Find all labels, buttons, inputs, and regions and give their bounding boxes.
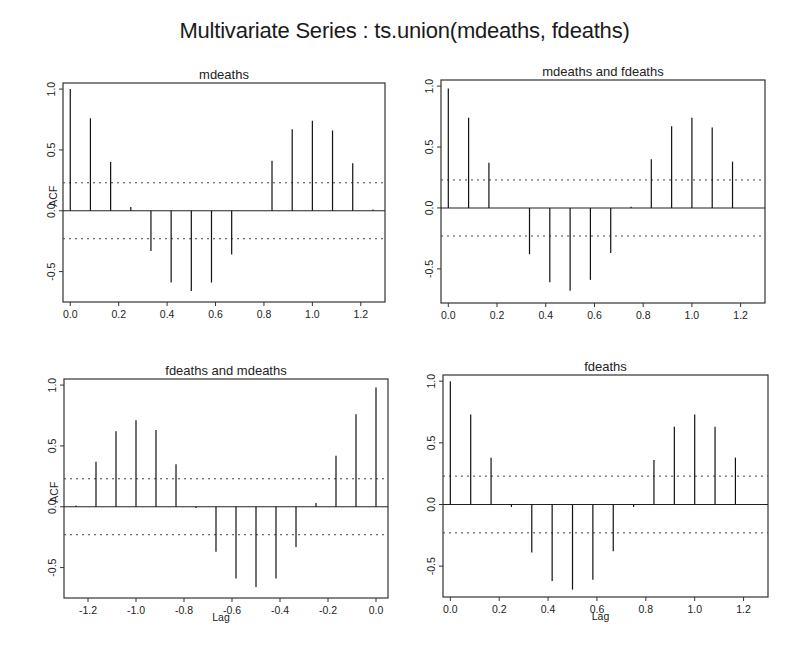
- x-axis-label: Lag: [592, 610, 610, 622]
- panel-title: fdeaths and mdeaths: [165, 363, 287, 378]
- x-tick-label: 0.0: [443, 603, 458, 615]
- plot-frame: [443, 375, 768, 597]
- y-axis-label: ACF: [48, 482, 60, 503]
- y-tick-label: 0.5: [425, 435, 437, 450]
- x-tick-label: 0.8: [636, 309, 651, 321]
- x-tick-label: -1.0: [127, 604, 145, 616]
- plot-frame: [64, 379, 388, 598]
- y-axis-label: ACF: [47, 186, 59, 207]
- y-tick-label: 0.5: [46, 438, 58, 453]
- x-tick-label: 0.6: [587, 309, 602, 321]
- x-tick-label: 0.6: [208, 308, 223, 320]
- x-tick-label: 0.2: [492, 603, 507, 615]
- x-tick-label: 1.0: [685, 309, 700, 321]
- x-tick-label: 0.8: [639, 603, 654, 615]
- x-tick-label: 0.0: [441, 309, 456, 321]
- x-tick-label: 0.0: [369, 604, 384, 616]
- panel-title: fdeaths: [584, 359, 627, 374]
- x-tick-label: 0.4: [160, 308, 175, 320]
- y-tick-label: 1.0: [425, 374, 437, 389]
- ccf-panel-mdeaths-fdeaths: mdeaths and fdeaths0.00.20.40.60.81.01.2…: [423, 64, 765, 321]
- y-tick-label: 1.0: [45, 82, 57, 97]
- x-axis-label: Lag: [212, 611, 230, 623]
- y-tick-label: -0.5: [46, 558, 58, 576]
- x-tick-label: 0.8: [257, 308, 272, 320]
- panel-title: mdeaths and fdeaths: [542, 64, 664, 79]
- x-tick-label: -1.2: [79, 604, 97, 616]
- x-tick-label: 1.0: [305, 308, 320, 320]
- x-tick-label: 1.2: [733, 309, 748, 321]
- y-tick-label: 0.0: [425, 497, 437, 512]
- x-tick-label: 1.2: [353, 308, 368, 320]
- x-tick-label: -0.4: [271, 604, 289, 616]
- y-tick-label: 1.0: [46, 378, 58, 393]
- plot-frame: [441, 80, 765, 303]
- acf-figure: mdeaths0.00.20.40.60.81.01.2-0.50.00.51.…: [0, 0, 809, 648]
- y-tick-label: 0.0: [423, 200, 435, 215]
- acf-panel-fdeaths: fdeaths0.00.20.40.60.81.01.2-0.50.00.51.…: [425, 359, 768, 622]
- acf-panel-mdeaths: mdeaths0.00.20.40.60.81.01.2-0.50.00.51.…: [45, 67, 385, 320]
- x-tick-label: -0.8: [175, 604, 193, 616]
- x-tick-label: 0.4: [541, 603, 556, 615]
- x-tick-label: 1.0: [687, 603, 702, 615]
- x-tick-label: 0.4: [538, 309, 553, 321]
- y-tick-label: -0.5: [45, 262, 57, 280]
- y-tick-label: 0.5: [45, 142, 57, 157]
- x-tick-label: 0.2: [490, 309, 505, 321]
- x-tick-label: 1.2: [736, 603, 751, 615]
- x-tick-label: 0.2: [111, 308, 126, 320]
- plot-frame: [63, 83, 385, 302]
- x-tick-label: 0.0: [63, 308, 78, 320]
- ccf-panel-fdeaths-mdeaths: fdeaths and mdeaths-1.2-1.0-0.8-0.6-0.4-…: [46, 363, 388, 623]
- y-tick-label: 0.5: [423, 140, 435, 155]
- y-tick-label: 1.0: [423, 79, 435, 94]
- y-tick-label: -0.5: [425, 557, 437, 575]
- x-tick-label: -0.2: [319, 604, 337, 616]
- y-tick-label: -0.5: [423, 260, 435, 278]
- panel-title: mdeaths: [199, 67, 249, 82]
